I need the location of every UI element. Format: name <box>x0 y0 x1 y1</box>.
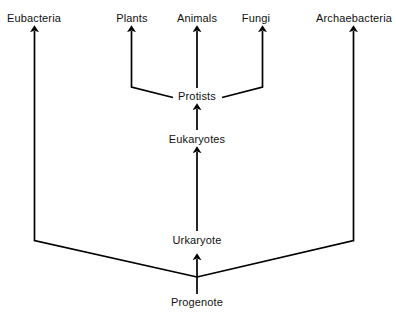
tree-connector-lines <box>0 0 396 319</box>
node-protists: Protists <box>175 90 219 103</box>
node-progenote: Progenote <box>168 296 226 309</box>
edge-protists-plants <box>132 31 174 98</box>
node-plants: Plants <box>113 12 150 25</box>
node-archaebacteria: Archaebacteria <box>313 12 395 25</box>
node-urkaryote: Urkaryote <box>169 234 224 247</box>
phylogenetic-tree-diagram: Eubacteria Plants Animals Fungi Archaeba… <box>0 0 396 319</box>
node-eukaryotes: Eukaryotes <box>166 133 229 146</box>
node-animals: Animals <box>174 12 220 25</box>
node-eubacteria: Eubacteria <box>4 12 64 25</box>
edge-protists-fungi <box>222 31 263 98</box>
node-fungi: Fungi <box>239 12 273 25</box>
